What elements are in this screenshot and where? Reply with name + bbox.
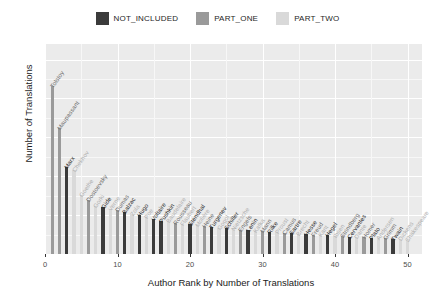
bar[interactable] — [123, 212, 126, 254]
bar[interactable] — [290, 233, 293, 254]
bar[interactable] — [174, 223, 177, 254]
bar[interactable] — [58, 128, 61, 254]
gridline-horizontal-major — [45, 254, 422, 255]
y-axis-title: Number of Translations — [23, 34, 34, 194]
x-tick-mark — [190, 254, 191, 257]
x-tick-mark — [45, 254, 46, 257]
legend-swatch-icon — [96, 12, 109, 25]
x-tick-mark — [408, 254, 409, 257]
gridline-horizontal-major — [45, 98, 422, 99]
bar[interactable] — [203, 226, 206, 254]
bar[interactable] — [210, 227, 213, 254]
x-tick-label: 10 — [113, 260, 121, 269]
gridline-horizontal-minor — [45, 118, 422, 119]
legend-label: PART_ONE — [214, 14, 258, 23]
bar[interactable] — [87, 200, 90, 254]
bar[interactable] — [109, 209, 112, 254]
legend-item-part-two[interactable]: PART_TWO — [276, 12, 339, 25]
gridline-horizontal-minor — [45, 79, 422, 80]
bar[interactable] — [80, 195, 83, 254]
bar[interactable] — [152, 219, 155, 254]
gridline-horizontal-major — [45, 60, 422, 61]
bar[interactable] — [275, 232, 278, 254]
x-tick-mark — [118, 254, 119, 257]
x-tick-label: 20 — [186, 260, 194, 269]
x-tick-label: 30 — [258, 260, 266, 269]
x-tick-label: 0 — [43, 260, 47, 269]
bar[interactable] — [94, 206, 97, 254]
bar[interactable] — [232, 229, 235, 254]
bar[interactable] — [181, 224, 184, 254]
legend-swatch-icon — [276, 12, 289, 25]
bar[interactable] — [261, 231, 264, 254]
bar[interactable] — [65, 167, 68, 254]
bar[interactable] — [116, 210, 119, 254]
bar[interactable] — [72, 170, 75, 254]
bar[interactable] — [217, 228, 220, 254]
x-tick-mark — [335, 254, 336, 257]
bar[interactable] — [145, 217, 148, 254]
bar[interactable] — [167, 221, 170, 254]
bar[interactable] — [138, 215, 141, 254]
legend-item-not-included[interactable]: NOT_INCLUDED — [96, 12, 179, 25]
x-tick-mark — [263, 254, 264, 257]
x-tick-label: 40 — [331, 260, 339, 269]
legend-item-part-one[interactable]: PART_ONE — [196, 12, 258, 25]
bar[interactable] — [51, 86, 54, 254]
x-axis-title: Author Rank by Number of Translations — [40, 277, 422, 288]
gridline-vertical-major — [45, 44, 46, 254]
gridline-horizontal-minor — [45, 157, 422, 158]
bar[interactable] — [246, 230, 249, 254]
bar[interactable] — [130, 214, 133, 254]
chart-root: NOT_INCLUDEDPART_ONEPART_TWO Number of T… — [0, 0, 435, 296]
legend-label: NOT_INCLUDED — [114, 14, 179, 23]
bar[interactable] — [159, 221, 162, 254]
gridline-horizontal-major — [45, 137, 422, 138]
bar[interactable] — [188, 224, 191, 254]
bar[interactable] — [225, 228, 228, 254]
bar[interactable] — [304, 234, 307, 254]
legend-swatch-icon — [196, 12, 209, 25]
chart-legend: NOT_INCLUDEDPART_ONEPART_TWO — [0, 12, 435, 25]
legend-label: PART_TWO — [294, 14, 339, 23]
x-tick-label: 50 — [403, 260, 411, 269]
bar[interactable] — [196, 225, 199, 254]
bar[interactable] — [101, 207, 104, 254]
